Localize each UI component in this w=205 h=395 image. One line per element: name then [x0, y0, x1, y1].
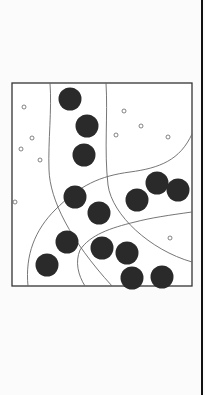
sphere: [56, 231, 79, 254]
sphere: [88, 202, 111, 225]
sphere: [64, 186, 87, 209]
sphere: [146, 172, 169, 195]
sphere: [121, 267, 144, 290]
sphere: [59, 88, 82, 111]
sphere: [116, 242, 139, 265]
sphere: [151, 266, 174, 289]
sphere: [91, 237, 114, 260]
sphere: [73, 144, 96, 167]
sphere: [36, 254, 59, 277]
sphere-channel-illustration: [0, 0, 205, 395]
sphere: [76, 115, 99, 138]
sphere: [126, 189, 149, 212]
sphere: [167, 179, 190, 202]
